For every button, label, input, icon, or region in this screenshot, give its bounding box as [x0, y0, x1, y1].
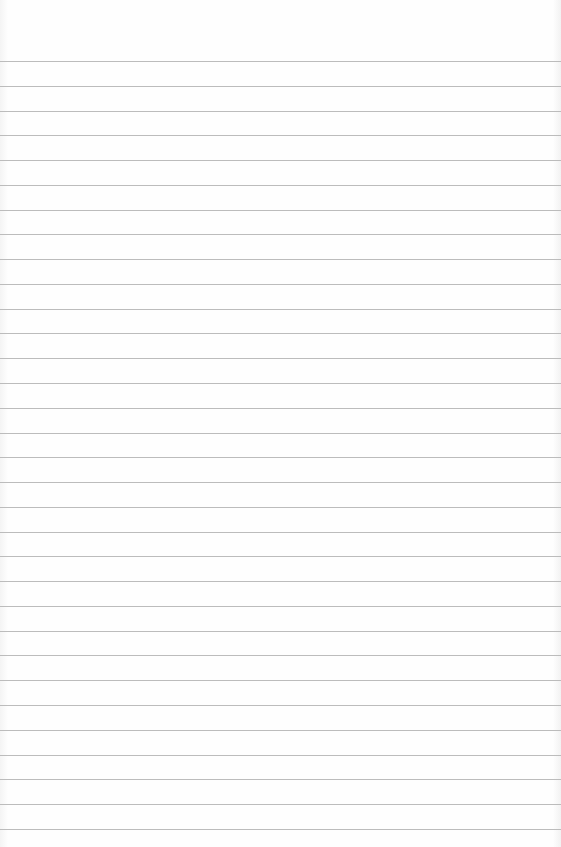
ruled-line [0, 655, 561, 656]
ruled-line [0, 160, 561, 161]
ruled-line [0, 135, 561, 136]
ruled-line [0, 829, 561, 830]
ruled-line [0, 631, 561, 632]
ruled-line [0, 383, 561, 384]
ruled-line [0, 333, 561, 334]
ruled-line [0, 111, 561, 112]
ruled-line [0, 779, 561, 780]
ruled-line [0, 284, 561, 285]
lined-paper [0, 0, 561, 847]
ruled-line [0, 507, 561, 508]
ruled-line [0, 606, 561, 607]
ruled-line [0, 358, 561, 359]
ruled-line [0, 61, 561, 62]
ruled-line [0, 433, 561, 434]
ruled-line [0, 482, 561, 483]
ruled-line [0, 86, 561, 87]
ruled-line [0, 804, 561, 805]
ruled-line [0, 581, 561, 582]
ruled-line [0, 408, 561, 409]
ruled-line [0, 532, 561, 533]
ruled-line [0, 556, 561, 557]
ruled-line [0, 755, 561, 756]
ruled-line [0, 309, 561, 310]
ruled-line [0, 185, 561, 186]
ruled-line [0, 730, 561, 731]
ruled-line [0, 210, 561, 211]
ruled-line [0, 457, 561, 458]
ruled-line [0, 680, 561, 681]
ruled-line [0, 234, 561, 235]
ruled-line [0, 259, 561, 260]
ruled-line [0, 705, 561, 706]
